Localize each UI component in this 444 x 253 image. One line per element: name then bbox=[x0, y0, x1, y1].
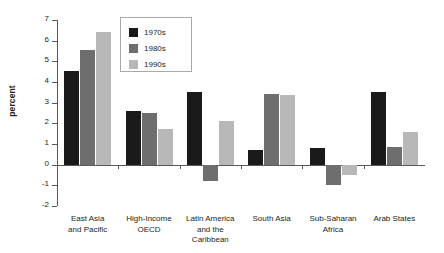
y-tick: 2 bbox=[52, 123, 57, 124]
bar bbox=[203, 165, 218, 182]
y-tick-label: 0 bbox=[45, 159, 49, 168]
x-tick bbox=[364, 165, 365, 169]
plot-area: -2-101234567 bbox=[57, 20, 425, 206]
legend-swatch-icon bbox=[129, 44, 138, 53]
y-tick-label: 4 bbox=[45, 76, 49, 85]
bar bbox=[96, 32, 111, 164]
y-tick: 1 bbox=[52, 144, 57, 145]
x-tick bbox=[302, 165, 303, 169]
legend-item: 1990s bbox=[129, 57, 166, 71]
legend-label: 1980s bbox=[144, 44, 166, 53]
bar bbox=[403, 132, 418, 165]
legend-swatch-icon bbox=[129, 60, 138, 69]
y-tick-label: 5 bbox=[45, 55, 49, 64]
bar bbox=[264, 94, 279, 164]
y-tick: 7 bbox=[52, 20, 57, 21]
bar bbox=[326, 165, 341, 186]
y-tick-label: -2 bbox=[42, 200, 49, 209]
bar bbox=[126, 111, 141, 165]
y-tick-label: 2 bbox=[45, 117, 49, 126]
y-tick: 6 bbox=[52, 41, 57, 42]
y-tick: 0 bbox=[52, 165, 57, 166]
y-tick-label: 6 bbox=[45, 35, 49, 44]
x-tick bbox=[241, 165, 242, 169]
bar bbox=[219, 121, 234, 164]
y-axis-line bbox=[57, 20, 58, 206]
y-axis-label: percent bbox=[7, 66, 17, 136]
y-tick-label: 1 bbox=[45, 138, 49, 147]
y-tick: -2 bbox=[52, 206, 57, 207]
bar bbox=[371, 92, 386, 164]
bar bbox=[387, 147, 402, 165]
x-tick bbox=[180, 165, 181, 169]
y-tick: -1 bbox=[52, 185, 57, 186]
legend-item: 1970s bbox=[129, 25, 166, 39]
bar bbox=[64, 71, 79, 165]
bar bbox=[342, 165, 357, 175]
legend-label: 1990s bbox=[144, 60, 166, 69]
category-label-line: Africa bbox=[296, 225, 369, 236]
bar bbox=[187, 92, 202, 164]
y-tick: 3 bbox=[52, 103, 57, 104]
legend-label: 1970s bbox=[144, 28, 166, 37]
bar bbox=[280, 95, 295, 164]
x-tick bbox=[118, 165, 119, 169]
bar bbox=[158, 129, 173, 165]
y-tick-label: 3 bbox=[45, 97, 49, 106]
y-tick: 4 bbox=[52, 82, 57, 83]
legend: 1970s1980s1990s bbox=[120, 17, 192, 72]
y-tick-label: -1 bbox=[42, 179, 49, 188]
bar-chart: percent -2-101234567 East Asiaand Pacifi… bbox=[0, 0, 444, 253]
category-label-line: and the bbox=[174, 225, 247, 236]
legend-swatch-icon bbox=[129, 28, 138, 37]
bar bbox=[310, 148, 325, 165]
y-tick-label: 7 bbox=[45, 14, 49, 23]
category-label: Arab States bbox=[358, 214, 431, 225]
legend-item: 1980s bbox=[129, 41, 166, 55]
bar bbox=[248, 150, 263, 164]
bar bbox=[80, 50, 95, 165]
category-label-line: Arab States bbox=[358, 214, 431, 225]
category-label-line: Caribbean bbox=[174, 235, 247, 246]
y-tick: 5 bbox=[52, 61, 57, 62]
bar bbox=[142, 113, 157, 165]
